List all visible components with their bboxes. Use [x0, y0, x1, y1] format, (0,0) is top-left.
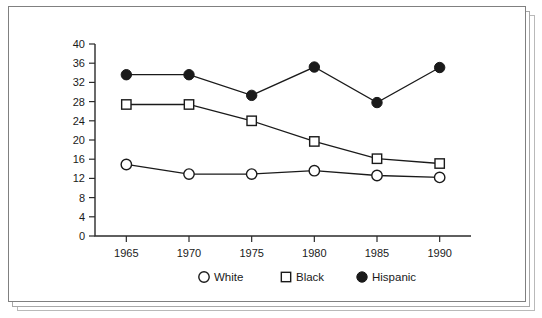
- data-point-white-1970: [184, 169, 194, 179]
- axes-group: [95, 44, 471, 236]
- y-tick-label: 0: [79, 230, 85, 242]
- x-tick-label: 1965: [114, 247, 138, 259]
- y-tick-label: 32: [73, 76, 85, 88]
- data-point-black-1975: [247, 116, 256, 125]
- chart-legend: WhiteBlackHispanic: [199, 271, 417, 283]
- y-tick-label: 28: [73, 96, 85, 108]
- x-tick-label: 1970: [177, 247, 201, 259]
- x-tick-label: 1980: [302, 247, 326, 259]
- legend-marker-black: [281, 272, 290, 281]
- data-point-white-1965: [121, 159, 131, 169]
- y-tick-label: 12: [73, 172, 85, 184]
- legend-label-white: White: [214, 271, 243, 283]
- y-tick-label: 20: [73, 134, 85, 146]
- data-point-hispanic-1985: [372, 97, 382, 107]
- x-axis-ticks: 196519701975198019851990: [114, 236, 452, 259]
- y-axis-ticks: 0481216202428323640: [73, 38, 95, 242]
- data-point-white-1975: [246, 169, 256, 179]
- data-point-hispanic-1990: [434, 62, 444, 72]
- y-tick-label: 8: [79, 192, 85, 204]
- chart-canvas: 0481216202428323640 19651970197519801985…: [9, 7, 525, 301]
- data-point-black-1965: [122, 100, 131, 109]
- legend-marker-hispanic: [357, 272, 367, 282]
- data-point-white-1980: [309, 166, 319, 176]
- legend-marker-white: [199, 272, 209, 282]
- legend-label-black: Black: [296, 271, 324, 283]
- line-chart: 0481216202428323640 19651970197519801985…: [9, 7, 525, 301]
- figure-frame: 0481216202428323640 19651970197519801985…: [8, 6, 526, 302]
- series-line-white: [126, 164, 439, 177]
- y-tick-label: 40: [73, 38, 85, 50]
- axis-lines: [95, 44, 471, 236]
- y-tick-label: 4: [79, 211, 85, 223]
- y-tick-label: 36: [73, 57, 85, 69]
- series-line-black: [126, 104, 439, 163]
- series-line-hispanic: [126, 67, 439, 103]
- data-point-hispanic-1970: [184, 70, 194, 80]
- y-tick-label: 16: [73, 153, 85, 165]
- screenshot-root: 0481216202428323640 19651970197519801985…: [0, 0, 542, 318]
- y-tick-label: 24: [73, 115, 85, 127]
- data-point-hispanic-1980: [309, 62, 319, 72]
- x-tick-label: 1975: [239, 247, 263, 259]
- data-series-group: [121, 62, 445, 183]
- data-point-black-1990: [435, 159, 444, 168]
- x-tick-label: 1990: [427, 247, 451, 259]
- data-point-hispanic-1965: [121, 70, 131, 80]
- data-point-white-1990: [434, 172, 444, 182]
- data-point-black-1985: [372, 154, 381, 163]
- x-tick-label: 1985: [365, 247, 389, 259]
- legend-label-hispanic: Hispanic: [372, 271, 416, 283]
- data-point-hispanic-1975: [246, 90, 256, 100]
- data-point-black-1980: [310, 137, 319, 146]
- data-point-black-1970: [184, 100, 193, 109]
- data-point-white-1985: [372, 170, 382, 180]
